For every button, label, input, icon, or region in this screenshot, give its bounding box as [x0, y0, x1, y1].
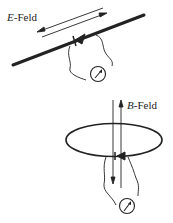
- b-field-label: B-Feld: [127, 100, 157, 111]
- physics-diagram: [0, 0, 173, 223]
- b-field-arrows: [111, 100, 123, 188]
- e-field-symbol: E: [7, 11, 14, 23]
- b-field-suffix: -Feld: [134, 99, 157, 111]
- diode-icon: [73, 34, 85, 46]
- meter-icon: [120, 199, 135, 214]
- loop-antenna: [66, 124, 162, 157]
- b-field-symbol: B: [127, 99, 134, 111]
- e-field-suffix: -Feld: [14, 11, 37, 23]
- meter-icon: [91, 67, 106, 82]
- e-field-label: E-Feld: [7, 12, 37, 23]
- diode-icon: [115, 152, 125, 160]
